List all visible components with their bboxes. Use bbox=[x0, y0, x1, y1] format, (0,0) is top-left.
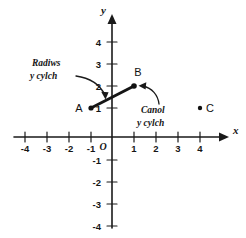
y-axis: y 4 3 2 1 -1 -2 -3 -4 bbox=[93, 4, 117, 232]
point-a-label: A bbox=[75, 102, 83, 114]
point-a-dot bbox=[88, 105, 93, 110]
figure-canvas: x -4 -3 -2 -1 1 2 3 4 y bbox=[0, 0, 246, 238]
point-c-label: C bbox=[206, 102, 214, 114]
x-tick-label-1: 1 bbox=[131, 143, 137, 154]
x-tick-label--4: -4 bbox=[21, 143, 30, 154]
point-a: A bbox=[75, 102, 93, 114]
x-tick-label--1: -1 bbox=[87, 143, 96, 154]
coordinate-figure: x -4 -3 -2 -1 1 2 3 4 y bbox=[0, 0, 246, 238]
annotation-centre-line1: Canol bbox=[141, 105, 165, 115]
annotation-centre-arrowhead bbox=[139, 82, 147, 89]
x-tick-label-4: 4 bbox=[197, 143, 203, 154]
x-axis-label: x bbox=[232, 124, 239, 136]
point-c: C bbox=[198, 102, 214, 114]
point-c-dot bbox=[198, 106, 202, 110]
origin-label: O bbox=[99, 141, 106, 152]
annotation-radius-line2: y cylch bbox=[29, 71, 57, 81]
x-axis-arrowhead bbox=[219, 133, 229, 142]
y-tick-label--3: -3 bbox=[93, 199, 101, 210]
annotation-centre: Canol y cylch bbox=[136, 82, 165, 128]
y-axis-label: y bbox=[99, 4, 106, 16]
x-tick-label-3: 3 bbox=[175, 143, 180, 154]
y-axis-arrowhead bbox=[108, 14, 117, 24]
point-b-dot bbox=[131, 83, 137, 89]
annotation-centre-line2: y cylch bbox=[136, 118, 164, 128]
y-tick-label--2: -2 bbox=[93, 177, 101, 188]
point-b-label: B bbox=[134, 66, 141, 78]
x-tick-label--3: -3 bbox=[43, 143, 51, 154]
y-tick-label-3: 3 bbox=[96, 59, 101, 70]
y-tick-label--1: -1 bbox=[93, 155, 102, 166]
x-tick-label--2: -2 bbox=[65, 143, 73, 154]
x-tick-label-2: 2 bbox=[153, 143, 158, 154]
annotation-radius-line1: Radiws bbox=[31, 58, 61, 68]
x-axis: x -4 -3 -2 -1 1 2 3 4 bbox=[14, 124, 239, 154]
y-tick-label-4: 4 bbox=[96, 37, 102, 48]
y-tick-label--4: -4 bbox=[93, 221, 102, 232]
